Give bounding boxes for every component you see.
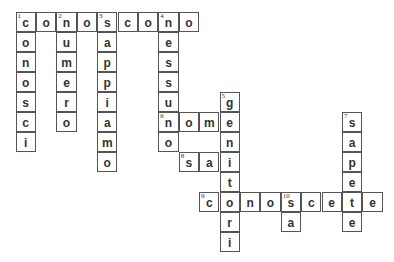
- cell-letter: o: [57, 116, 75, 130]
- crossword-cell[interactable]: o: [179, 112, 199, 132]
- crossword-cell[interactable]: r: [56, 92, 76, 112]
- cell-letter: o: [261, 196, 279, 210]
- crossword-cell[interactable]: u: [158, 92, 178, 112]
- crossword-cell[interactable]: c: [301, 192, 321, 212]
- cell-letter: o: [17, 36, 35, 50]
- crossword-cell[interactable]: c: [118, 12, 138, 32]
- crossword-cell[interactable]: c: [16, 112, 36, 132]
- crossword-cell[interactable]: a: [97, 112, 117, 132]
- cell-letter: o: [98, 156, 116, 170]
- cell-letter: c: [17, 116, 35, 130]
- cell-letter: s: [17, 96, 35, 110]
- cell-letter: t: [343, 196, 361, 210]
- cell-letter: o: [180, 16, 198, 30]
- crossword-cell[interactable]: o: [138, 12, 158, 32]
- crossword-cell[interactable]: r: [220, 212, 240, 232]
- cell-letter: i: [17, 136, 35, 150]
- cell-letter: o: [180, 116, 198, 130]
- crossword-cell[interactable]: o: [16, 32, 36, 52]
- cell-letter: n: [57, 16, 75, 30]
- crossword-cell[interactable]: a: [342, 132, 362, 152]
- crossword-cell[interactable]: o: [77, 12, 97, 32]
- crossword-cell[interactable]: i: [97, 92, 117, 112]
- crossword-cell[interactable]: s: [158, 72, 178, 92]
- crossword-cell[interactable]: e: [342, 172, 362, 192]
- cell-letter: s: [159, 76, 177, 90]
- crossword-cell[interactable]: o: [97, 152, 117, 172]
- crossword-cell[interactable]: 4n: [158, 12, 178, 32]
- crossword-cell[interactable]: i: [16, 132, 36, 152]
- cell-letter: g: [221, 96, 239, 110]
- crossword-cell[interactable]: a: [199, 152, 219, 172]
- cell-letter: c: [200, 196, 218, 210]
- cell-letter: u: [57, 36, 75, 50]
- cell-letter: o: [78, 16, 96, 30]
- cell-letter: o: [37, 16, 55, 30]
- cell-letter: p: [98, 76, 116, 90]
- crossword-cell[interactable]: n: [240, 192, 260, 212]
- crossword-cell[interactable]: 2n: [56, 12, 76, 32]
- cell-letter: s: [343, 116, 361, 130]
- crossword-cell[interactable]: a: [281, 212, 301, 232]
- crossword-cell[interactable]: s: [16, 92, 36, 112]
- crossword-cell[interactable]: m: [97, 132, 117, 152]
- crossword-cell[interactable]: s: [158, 52, 178, 72]
- crossword-cell[interactable]: 6n: [158, 112, 178, 132]
- cell-letter: e: [323, 196, 341, 210]
- crossword-cell[interactable]: u: [56, 32, 76, 52]
- crossword-cell[interactable]: e: [322, 192, 342, 212]
- cell-letter: e: [363, 196, 381, 210]
- crossword-cell[interactable]: e: [362, 192, 382, 212]
- crossword-cell[interactable]: e: [158, 32, 178, 52]
- cell-letter: m: [98, 136, 116, 150]
- crossword-cell[interactable]: o: [158, 132, 178, 152]
- crossword-cell[interactable]: n: [220, 132, 240, 152]
- cell-letter: c: [119, 16, 137, 30]
- crossword-cell[interactable]: m: [56, 52, 76, 72]
- crossword-cell[interactable]: a: [97, 32, 117, 52]
- cell-letter: s: [180, 156, 198, 170]
- crossword-cell[interactable]: o: [260, 192, 280, 212]
- crossword-cell[interactable]: 9c: [199, 192, 219, 212]
- crossword-cell[interactable]: p: [97, 52, 117, 72]
- crossword-cell[interactable]: e: [220, 112, 240, 132]
- crossword-cell[interactable]: t: [220, 172, 240, 192]
- crossword-cell[interactable]: 7s: [342, 112, 362, 132]
- cell-letter: r: [221, 216, 239, 230]
- crossword-cell[interactable]: o: [36, 12, 56, 32]
- cell-letter: a: [98, 36, 116, 50]
- cell-letter: e: [343, 216, 361, 230]
- crossword-cell[interactable]: m: [199, 112, 219, 132]
- crossword-cell[interactable]: i: [220, 152, 240, 172]
- crossword-cell[interactable]: e: [56, 72, 76, 92]
- crossword-cell[interactable]: 1c: [16, 12, 36, 32]
- crossword-cell[interactable]: e: [342, 212, 362, 232]
- crossword-cell[interactable]: n: [16, 52, 36, 72]
- crossword-cell[interactable]: 5g: [220, 92, 240, 112]
- cell-letter: c: [17, 16, 35, 30]
- crossword-cell[interactable]: p: [97, 72, 117, 92]
- cell-letter: a: [343, 136, 361, 150]
- crossword-cell[interactable]: o: [179, 12, 199, 32]
- cell-letter: o: [159, 136, 177, 150]
- crossword-cell[interactable]: i: [220, 232, 240, 252]
- cell-letter: p: [98, 56, 116, 70]
- crossword-cell[interactable]: o: [16, 72, 36, 92]
- crossword-cell[interactable]: o: [56, 112, 76, 132]
- cell-letter: s: [282, 196, 300, 210]
- cell-letter: a: [200, 156, 218, 170]
- cell-letter: i: [98, 96, 116, 110]
- cell-letter: n: [17, 56, 35, 70]
- crossword-cell[interactable]: o: [220, 192, 240, 212]
- crossword-cell[interactable]: 8s: [179, 152, 199, 172]
- crossword-cell[interactable]: 3s: [97, 12, 117, 32]
- cell-letter: o: [221, 196, 239, 210]
- crossword-cell[interactable]: p: [342, 152, 362, 172]
- cell-letter: o: [17, 76, 35, 90]
- cell-letter: e: [343, 176, 361, 190]
- cell-letter: a: [98, 116, 116, 130]
- cell-letter: c: [302, 196, 320, 210]
- crossword-grid: 1co2no3sco4noonosciumeroappiamoessu6no5g…: [0, 0, 394, 262]
- crossword-cell[interactable]: 10s: [281, 192, 301, 212]
- crossword-cell[interactable]: t: [342, 192, 362, 212]
